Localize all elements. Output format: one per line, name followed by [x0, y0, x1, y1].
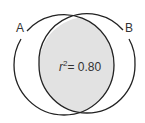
set-a-label: A — [16, 21, 24, 35]
venn-diagram: A B r2= 0.80 — [0, 0, 145, 123]
set-b-label: B — [125, 21, 133, 35]
stat-value: = 0.80 — [67, 60, 101, 74]
